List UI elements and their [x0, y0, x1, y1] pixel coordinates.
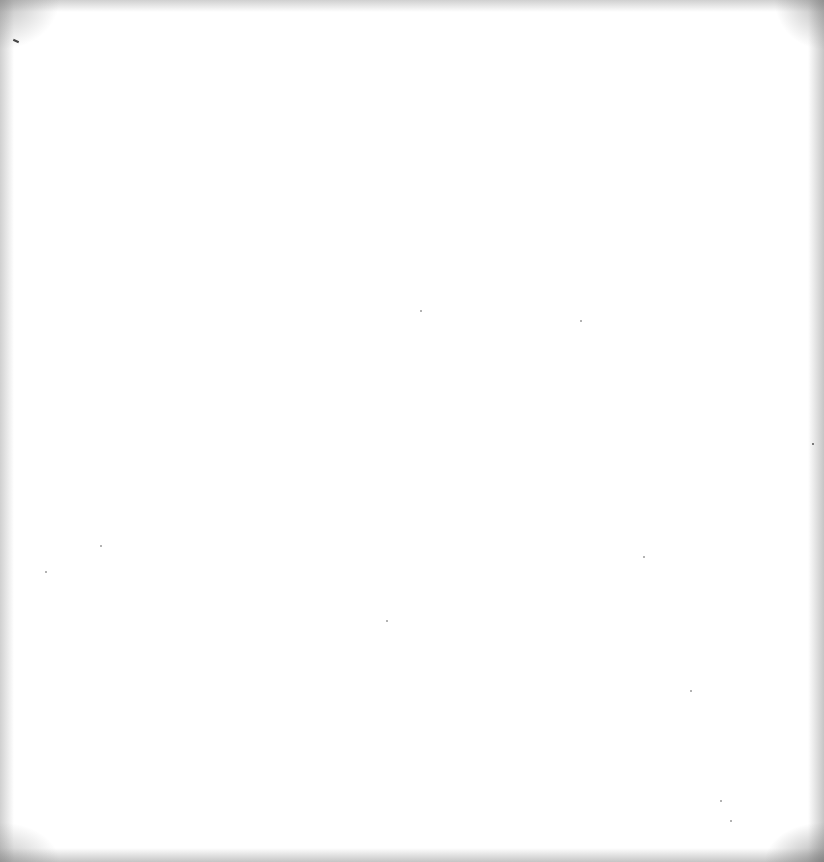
scan-corner-shadow — [0, 822, 60, 862]
scan-corner-shadow — [764, 822, 824, 862]
scan-speck — [690, 690, 692, 692]
blank-document-page — [0, 0, 824, 862]
scan-mark — [13, 39, 19, 43]
scan-speck — [643, 556, 645, 558]
scan-speck — [812, 443, 814, 445]
scan-speck — [420, 310, 422, 312]
scan-corner-shadow — [0, 0, 60, 50]
scan-speck — [386, 620, 388, 622]
scan-speck — [730, 820, 732, 822]
scan-speck — [100, 545, 102, 547]
scan-shadow-right — [808, 0, 824, 862]
scan-shadow-left — [0, 0, 14, 862]
scan-shadow-top — [0, 0, 824, 12]
scan-speck — [45, 571, 47, 573]
scan-corner-shadow — [774, 0, 824, 50]
scan-speck — [580, 320, 582, 322]
scan-shadow-bottom — [0, 848, 824, 862]
scan-speck — [720, 800, 722, 802]
